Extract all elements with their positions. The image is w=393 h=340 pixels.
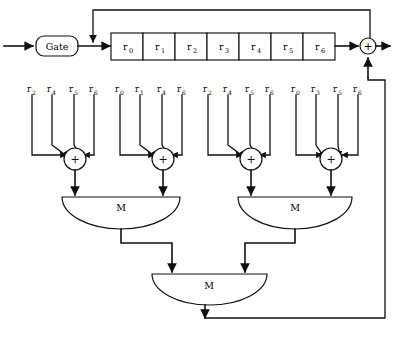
input-gate-block[interactable] xyxy=(36,36,78,56)
shift-register xyxy=(111,33,335,60)
adder-circle-4 xyxy=(320,148,342,170)
majority-gate-final xyxy=(152,274,267,305)
tap-lines-group-1 xyxy=(32,95,94,157)
diagram-canvas xyxy=(0,0,393,340)
m-right-output-wire xyxy=(245,229,295,272)
majority-gate-left xyxy=(62,197,180,229)
tap-lines-group-2 xyxy=(120,95,182,157)
output-adder xyxy=(360,38,376,54)
m-left-output-wire xyxy=(121,229,172,272)
decoder-diagram: Gate r 0 r 1 r 2 r 3 r 4 r 5 r 6 xyxy=(0,0,393,340)
tap-lines-group-3 xyxy=(208,95,270,157)
adder-circle-3 xyxy=(240,148,262,170)
adder-output-wires xyxy=(75,170,331,195)
adder-circle-2 xyxy=(152,148,174,170)
adder-circle-1 xyxy=(64,148,86,170)
majority-gate-right xyxy=(238,197,352,229)
tap-lines-group-4 xyxy=(296,95,358,157)
